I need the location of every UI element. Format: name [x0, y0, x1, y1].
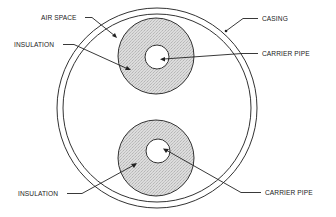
lower-pipe-assembly: [118, 120, 194, 196]
callout-insulation-top: INSULATION: [14, 41, 131, 70]
leader-casing: [226, 19, 258, 32]
dot-marker-icon: [225, 30, 228, 33]
upper-pipe-assembly: [118, 18, 194, 94]
label-insulation-bottom: INSULATION: [18, 190, 58, 197]
label-casing: CASING: [262, 15, 288, 22]
label-carrier-pipe-top: CARRIER PIPE: [262, 50, 310, 57]
upper-carrier-pipe: [145, 45, 169, 69]
callout-air-space: AIR SPACE: [41, 14, 117, 38]
callout-casing: CASING: [225, 15, 288, 32]
pipe-cross-section-diagram: AIR SPACE INSULATION CASING CARRIER PIPE…: [0, 0, 336, 217]
label-air-space: AIR SPACE: [41, 14, 77, 21]
label-carrier-pipe-bottom: CARRIER PIPE: [265, 189, 313, 196]
label-insulation-top: INSULATION: [14, 41, 54, 48]
